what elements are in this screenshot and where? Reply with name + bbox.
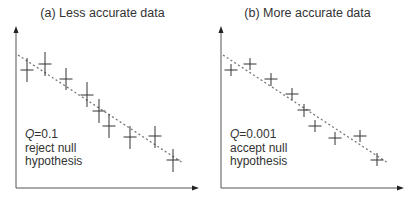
q-label: Q [230, 127, 239, 141]
data-point [244, 58, 257, 70]
q-label: Q [25, 127, 34, 141]
x-axis-arrow-icon [192, 186, 199, 191]
data-point [329, 132, 342, 145]
data-point [167, 149, 180, 172]
annotation: Q=0.1 reject null hypothesis [25, 128, 82, 169]
annotation-line2: hypothesis [230, 155, 287, 169]
data-point [309, 120, 322, 132]
y-axis-arrow-icon [14, 26, 19, 33]
data-point [39, 52, 52, 76]
data-point [354, 130, 367, 142]
data-point [371, 153, 384, 166]
q-value: =0.001 [239, 127, 276, 141]
q-value: =0.1 [34, 127, 58, 141]
data-point [298, 104, 311, 117]
panel-a: (a) Less accurate data Q=0.1 reject null… [0, 0, 205, 197]
annotation: Q=0.001 accept null hypothesis [230, 128, 287, 169]
annotation-line2: hypothesis [25, 155, 82, 169]
annotation-line1: reject null [25, 142, 82, 156]
data-point [286, 88, 299, 100]
data-point [60, 68, 73, 90]
data-point [149, 126, 162, 148]
panel-b: (b) More accurate data Q=0.001 accept nu… [205, 0, 410, 197]
x-axis-arrow-icon [397, 186, 404, 191]
data-point [265, 73, 278, 86]
annotation-line1: accept null [230, 142, 287, 156]
data-point [225, 64, 238, 76]
data-point [124, 126, 137, 149]
data-point [21, 58, 34, 82]
data-point [93, 99, 106, 123]
y-axis-arrow-icon [219, 26, 224, 33]
data-point [81, 82, 94, 107]
